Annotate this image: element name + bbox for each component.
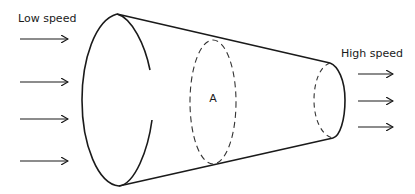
duct-bottom-wall	[119, 138, 333, 186]
section-a-label: A	[209, 92, 217, 105]
duct-top-wall	[117, 14, 330, 63]
outlet-ellipse-rear	[314, 63, 333, 138]
outlet-ellipse-front	[330, 63, 345, 138]
converging-duct-diagram	[0, 0, 415, 194]
outlet-arrows	[358, 74, 393, 127]
outlet-label: High speed	[341, 47, 403, 60]
inlet-label: Low speed	[18, 12, 76, 25]
inlet-ellipse-rear	[117, 14, 150, 70]
inlet-arrows	[20, 39, 68, 161]
inlet-section-ellipse	[82, 14, 152, 186]
